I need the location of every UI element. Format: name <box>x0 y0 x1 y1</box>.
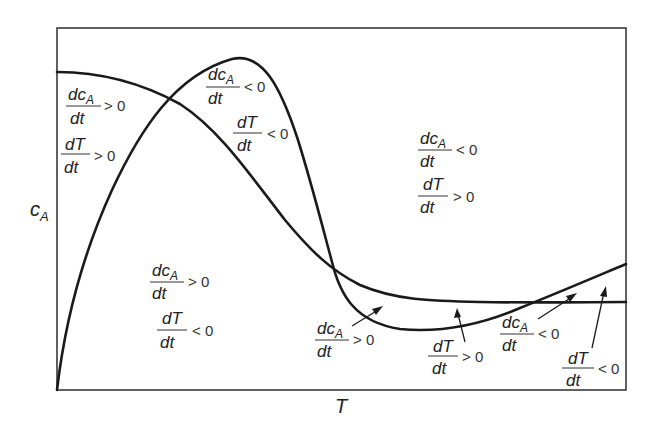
region-label-upper-right: dcA dt < 0 dT dt > 0 <box>418 129 477 217</box>
region-label-peak: dcA dt < 0 dT dt < 0 <box>206 65 288 155</box>
arrow-line <box>352 310 378 326</box>
relation: > 0 <box>453 188 474 205</box>
y-axis-label: cA <box>30 198 49 224</box>
fraction-denominator: dt <box>420 152 435 171</box>
fraction-denominator: dt <box>152 284 167 303</box>
arrowhead-icon <box>372 306 383 315</box>
arrow-line <box>538 297 572 319</box>
relation: > 0 <box>94 147 115 164</box>
arrowhead-icon <box>566 293 577 302</box>
fraction-numerator: dcA <box>68 85 94 107</box>
relation: < 0 <box>456 141 477 158</box>
fraction-denominator: dt <box>317 342 332 361</box>
fraction-denominator: dt <box>64 158 79 177</box>
relation: < 0 <box>192 322 213 339</box>
arrowhead-icon <box>454 308 461 318</box>
fraction-denominator: dt <box>432 359 447 378</box>
callout-lower-mid-dT: dT dt > 0 <box>428 308 483 378</box>
arrow-line <box>458 314 465 342</box>
relation: < 0 <box>538 325 559 342</box>
relation: < 0 <box>267 125 288 142</box>
callout-lower-mid-dca: dcA dt > 0 <box>315 306 383 361</box>
relation: > 0 <box>462 348 483 365</box>
arrowhead-icon <box>600 286 607 297</box>
fraction-denominator: dt <box>208 89 223 108</box>
relation: < 0 <box>244 78 265 95</box>
fraction-numerator: dT <box>423 175 444 194</box>
region-label-lower-left: dcA dt > 0 dT dt < 0 <box>150 261 213 352</box>
fraction-numerator: dcA <box>208 65 234 87</box>
region-label-upper-left: dcA dt > 0 dT dt > 0 <box>61 85 125 177</box>
fraction-numerator: dcA <box>502 313 528 335</box>
arrow-line <box>592 292 604 348</box>
relation: > 0 <box>353 331 374 348</box>
relation: < 0 <box>598 360 619 377</box>
phase-plane-diagram: dcA dt > 0 dT dt > 0 dcA dt < 0 dT dt < … <box>0 0 655 434</box>
fraction-denominator: dt <box>70 109 85 128</box>
fraction-numerator: dcA <box>420 129 446 151</box>
fraction-denominator: dt <box>566 371 581 390</box>
fraction-numerator: dT <box>162 309 183 328</box>
fraction-numerator: dT <box>568 349 589 368</box>
fraction-numerator: dT <box>237 113 258 132</box>
x-axis-label: T <box>335 395 349 417</box>
relation: > 0 <box>188 273 209 290</box>
fraction-denominator: dt <box>502 336 517 355</box>
fraction-denominator: dt <box>420 198 435 217</box>
fraction-numerator: dT <box>65 135 86 154</box>
fraction-numerator: dcA <box>152 261 178 283</box>
curve-dcA-nullcline <box>57 72 626 302</box>
fraction-denominator: dt <box>160 333 175 352</box>
fraction-denominator: dt <box>237 136 252 155</box>
fraction-numerator: dcA <box>317 319 343 341</box>
fraction-numerator: dT <box>433 337 454 356</box>
relation: > 0 <box>104 97 125 114</box>
